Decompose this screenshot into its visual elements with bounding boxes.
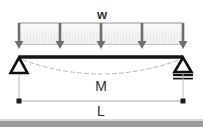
dimension-dot-right (181, 99, 186, 104)
dimension-dot-left (17, 99, 22, 104)
length-label-l: L (89, 104, 113, 118)
load-label-w: w (90, 8, 114, 21)
bottom-band (0, 121, 203, 127)
moment-label-m: M (89, 79, 113, 93)
pin-support (11, 58, 28, 74)
deflection-curve (23, 60, 179, 74)
beam-diagram-figure: w M L (0, 0, 203, 130)
